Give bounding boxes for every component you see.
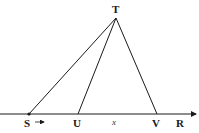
- segment-VT: [116, 18, 157, 114]
- segment-ST: [29, 18, 116, 114]
- segment-UT: [78, 18, 116, 114]
- label-x: x: [111, 117, 116, 127]
- label-U: U: [73, 117, 81, 129]
- geometry-diagram: T S U V R x: [0, 0, 199, 133]
- label-T: T: [112, 3, 120, 15]
- point-S-dot: [27, 112, 30, 115]
- label-V: V: [152, 117, 160, 129]
- label-S: S: [24, 117, 30, 129]
- label-R: R: [176, 117, 185, 129]
